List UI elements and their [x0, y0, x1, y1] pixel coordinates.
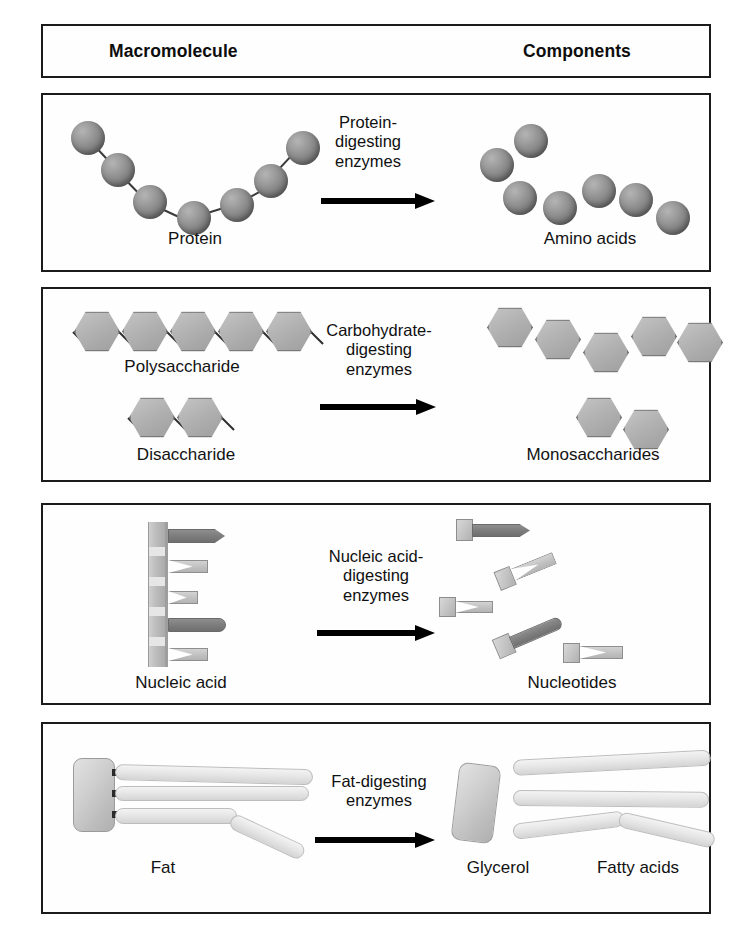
disaccharide-unit [177, 397, 223, 438]
protein-subunit [71, 121, 105, 155]
diagram-canvas: Macromolecule Components Protein Protein… [0, 0, 741, 946]
row-panel-nucleic-acid: Nucleic acid Nucleic acid- digesting enz… [41, 503, 711, 705]
enzyme-label-carbohydrate: Carbohydrate- digesting enzymes [286, 321, 472, 379]
nucleotide-base [168, 648, 208, 661]
polysaccharide-unit [122, 311, 168, 352]
fatty-acid-chain [115, 764, 313, 785]
glycosidic-bond [221, 417, 234, 430]
free-fatty-acid [512, 810, 625, 840]
monosaccharide-unit [623, 409, 669, 450]
row-label-fat: Fat [103, 858, 223, 878]
enzyme-line: Fat-digesting [291, 772, 467, 791]
free-nucleotide [456, 519, 531, 541]
monosaccharide-unit [576, 397, 622, 438]
enzyme-line: digesting [281, 566, 471, 585]
enzyme-line: enzymes [278, 152, 458, 171]
free-glycerol-block [450, 762, 501, 845]
free-fatty-acid [513, 790, 709, 808]
row-label-polysaccharide: Polysaccharide [67, 357, 297, 377]
header-label-macromolecule: Macromolecule [109, 41, 238, 62]
fatty-acid-chain-bend [228, 813, 307, 861]
free-fatty-acid-bend [617, 811, 716, 849]
row-panel-protein: Protein Protein- digesting enzymes Amino… [41, 93, 711, 272]
protein-subunit [133, 185, 167, 219]
amino-acid-unit [480, 148, 514, 182]
free-nucleotide [492, 612, 566, 659]
enzyme-line: enzymes [291, 791, 467, 810]
header-panel: Macromolecule Components [41, 24, 711, 78]
monosaccharide-unit [487, 307, 533, 348]
free-nucleotide [439, 597, 494, 617]
enzyme-line: enzymes [286, 360, 472, 379]
polysaccharide-unit [218, 311, 264, 352]
nucleotide-base [168, 618, 226, 632]
enzyme-line: Carbohydrate- [286, 321, 472, 340]
monosaccharide-unit [535, 319, 581, 360]
amino-acid-unit [543, 191, 577, 225]
reaction-arrow-nucleic-acid [317, 625, 435, 641]
monosaccharide-unit [583, 332, 629, 373]
fatty-acid-chain [115, 808, 237, 824]
amino-acid-unit [582, 174, 616, 208]
row-panel-carbohydrate: Polysaccharide Disaccharide Carbohydrate… [41, 287, 711, 482]
row-label-amino-acids: Amino acids [495, 229, 685, 249]
nucleotide-base [168, 529, 225, 543]
enzyme-label-protein: Protein- digesting enzymes [278, 113, 458, 171]
disaccharide-unit [129, 397, 175, 438]
polysaccharide-unit [170, 311, 216, 352]
reaction-arrow-fat [315, 832, 435, 848]
amino-acid-unit [619, 183, 653, 217]
row-panel-fat: Fat Fat-digesting enzymes Glycerol Fatty… [41, 722, 711, 914]
row-label-monosaccharides: Monosaccharides [473, 445, 713, 465]
polysaccharide-unit [74, 311, 120, 352]
row-label-glycerol: Glycerol [433, 858, 563, 878]
enzyme-line: Protein- [278, 113, 458, 132]
enzyme-line: digesting [278, 132, 458, 151]
free-nucleotide [494, 549, 559, 591]
row-label-nucleotides: Nucleotides [467, 673, 677, 693]
header-label-components: Components [523, 41, 631, 62]
protein-subunit [220, 188, 254, 222]
enzyme-label-fat: Fat-digesting enzymes [291, 772, 467, 811]
monosaccharide-unit [677, 322, 723, 363]
free-fatty-acid [513, 750, 712, 776]
nucleotide-base [168, 591, 198, 604]
glycerol-block [73, 758, 115, 832]
row-label-disaccharide: Disaccharide [86, 445, 286, 465]
nucleotide-base [168, 560, 208, 573]
reaction-arrow-carbohydrate [320, 399, 436, 415]
free-nucleotide [563, 643, 623, 663]
row-label-nucleic-acid: Nucleic acid [91, 673, 271, 693]
protein-subunit [101, 153, 135, 187]
fatty-acid-chain [115, 786, 309, 801]
enzyme-line: Nucleic acid- [281, 547, 471, 566]
row-label-protein: Protein [115, 229, 275, 249]
amino-acid-unit [503, 181, 537, 215]
monosaccharide-unit [631, 316, 677, 357]
reaction-arrow-protein [321, 193, 435, 209]
enzyme-line: digesting [286, 340, 472, 359]
amino-acid-unit [514, 124, 548, 158]
row-label-fatty-acids: Fatty acids [563, 858, 713, 878]
